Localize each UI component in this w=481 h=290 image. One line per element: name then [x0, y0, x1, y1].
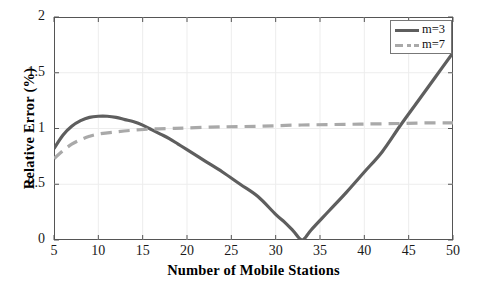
- x-tick-label: 50: [433, 243, 473, 259]
- chart-figure: 00.511.52 5101520253035404550 Number of …: [0, 0, 481, 290]
- x-tick-label: 30: [256, 243, 296, 259]
- legend-swatch-dashed-icon: [394, 39, 420, 51]
- legend-label-m7: m=7: [422, 37, 445, 52]
- legend-swatch-solid-icon: [394, 24, 420, 36]
- x-tick-label: 10: [78, 243, 118, 259]
- legend-label-m3: m=3: [422, 22, 445, 37]
- x-tick-label: 5: [34, 243, 74, 259]
- series-lines: [54, 53, 453, 240]
- x-tick-label: 15: [123, 243, 163, 259]
- x-axis-title: Number of Mobile Stations: [54, 262, 453, 279]
- x-tick-label: 20: [167, 243, 207, 259]
- y-axis-title: Relative Error (%): [21, 39, 38, 219]
- legend: m=3 m=7: [390, 20, 452, 54]
- legend-item-m7: m=7: [394, 37, 451, 52]
- x-tick-label: 35: [300, 243, 340, 259]
- legend-item-m3: m=3: [394, 22, 451, 37]
- x-tick-label: 45: [389, 243, 429, 259]
- x-tick-label: 40: [344, 243, 384, 259]
- x-tick-label: 25: [211, 243, 251, 259]
- y-tick-label: 2: [0, 8, 45, 24]
